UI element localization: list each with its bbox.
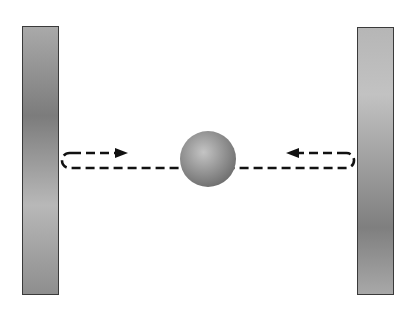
arrow-right-icon	[115, 148, 128, 158]
diagram-canvas	[0, 0, 410, 317]
ball	[180, 131, 236, 187]
arrow-left-icon	[286, 148, 299, 158]
motion-path-layer	[0, 0, 410, 317]
